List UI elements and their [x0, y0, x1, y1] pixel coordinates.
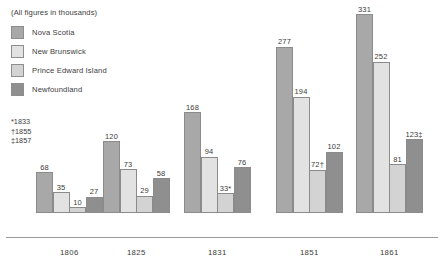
bar-value-label: 94	[205, 147, 214, 156]
bar: 277	[276, 47, 293, 213]
bar: 58	[153, 178, 170, 213]
bar-column: 73	[120, 2, 137, 213]
bar-column: 168	[184, 2, 201, 213]
bar: 27	[86, 197, 103, 213]
bar-column: 81	[389, 2, 406, 213]
bar: 252	[373, 62, 390, 213]
bar: 168	[184, 112, 201, 213]
bar: 94	[201, 157, 218, 213]
bar-value-label: 10	[73, 198, 82, 207]
bar-value-label: 168	[186, 103, 199, 112]
bar: 76	[234, 167, 251, 213]
bar: 194	[293, 97, 310, 213]
bar-group: 27719472†102	[276, 2, 343, 213]
bar: 72†	[309, 170, 326, 213]
x-axis-line	[6, 237, 438, 238]
bar-value-label: 73	[124, 160, 133, 169]
bar-group: 1689433*76	[184, 2, 251, 213]
bar: 73	[120, 169, 137, 213]
bar-value-label: 58	[157, 169, 166, 178]
bar-value-label: 252	[375, 52, 388, 61]
x-axis-tick-label: 1806	[36, 248, 103, 257]
bar-value-label: 123‡	[405, 130, 422, 139]
bar-value-label: 76	[238, 158, 247, 167]
bar-value-label: 35	[57, 183, 66, 192]
x-axis-tick-label: 1851	[276, 248, 343, 257]
population-bar-chart: (All figures in thousands) Nova Scotia N…	[0, 0, 443, 264]
bar-column: 252	[373, 2, 390, 213]
bar: 331	[356, 14, 373, 213]
bar-column: 94	[201, 2, 218, 213]
bar-value-label: 102	[328, 142, 341, 151]
bar-column: 72†	[309, 2, 326, 213]
bar-column: 35	[53, 2, 70, 213]
bar-column: 120	[103, 2, 120, 213]
bar-value-label: 27	[90, 187, 99, 196]
bar: 120	[103, 141, 120, 213]
bar: 102	[326, 152, 343, 213]
bar-value-label: 120	[105, 132, 118, 141]
plot-area: 683510271207329581689433*7627719472†1023…	[0, 0, 443, 240]
bar-group: 33125281123‡	[356, 2, 423, 213]
bar-column: 76	[234, 2, 251, 213]
bar-value-label: 33*	[220, 184, 232, 193]
bar-column: 102	[326, 2, 343, 213]
bar: 10	[69, 207, 86, 213]
x-axis-tick-label: 1825	[103, 248, 170, 257]
bar-column: 58	[153, 2, 170, 213]
bar-value-label: 277	[278, 37, 291, 46]
bar-column: 27	[86, 2, 103, 213]
bar-column: 29	[136, 2, 153, 213]
bar-value-label: 72†	[311, 160, 324, 169]
bar-column: 68	[36, 2, 53, 213]
bar: 29	[136, 196, 153, 213]
x-axis-tick-label: 1831	[184, 248, 251, 257]
bar-value-label: 68	[40, 163, 49, 172]
x-axis-tick-label: 1861	[356, 248, 423, 257]
bar: 33*	[217, 193, 234, 213]
bar-value-label: 29	[140, 186, 149, 195]
bar: 81	[389, 164, 406, 213]
bar-column: 194	[293, 2, 310, 213]
bar: 123‡	[406, 139, 423, 213]
bar: 68	[36, 172, 53, 213]
bar-column: 123‡	[406, 2, 423, 213]
bar-value-label: 81	[393, 155, 402, 164]
bar-group: 120732958	[103, 2, 170, 213]
bar-column: 277	[276, 2, 293, 213]
bar-value-label: 331	[358, 5, 371, 14]
bar-group: 68351027	[36, 2, 103, 213]
bar: 35	[53, 192, 70, 213]
bar-column: 33*	[217, 2, 234, 213]
bar-value-label: 194	[295, 87, 308, 96]
bar-column: 331	[356, 2, 373, 213]
bar-column: 10	[69, 2, 86, 213]
